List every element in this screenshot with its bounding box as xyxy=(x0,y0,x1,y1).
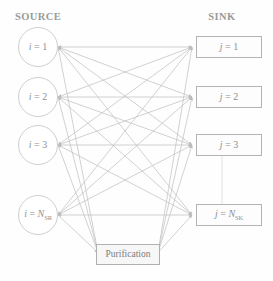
source-2[interactable]: i = 2 xyxy=(18,77,58,117)
column-header-source: SOURCE xyxy=(15,11,61,22)
source-1-label: i = 1 xyxy=(29,42,47,52)
sink-1[interactable]: j = 1 xyxy=(196,36,262,58)
network-flow-diagram: SOURCE SINK i = 1i = 2i = 3i = NSR j = 1… xyxy=(0,0,273,281)
source-2-label: i = 2 xyxy=(29,92,47,102)
edge-purification-to-sink-1 xyxy=(158,47,192,253)
edge-source-1-to-purification xyxy=(58,47,98,253)
edge-purification-to-sink-3 xyxy=(158,145,192,253)
sink-3[interactable]: j = 3 xyxy=(196,134,262,156)
source-3[interactable]: i = 3 xyxy=(18,125,58,165)
edge-source-3-to-purification xyxy=(58,145,98,253)
sink-1-label: j = 1 xyxy=(220,42,238,52)
source-3-label: i = 3 xyxy=(29,140,47,150)
sink-2-label: j = 2 xyxy=(220,92,238,102)
edge-group xyxy=(58,47,192,253)
sink-nsk[interactable]: j = NSK xyxy=(196,204,262,226)
edge-purification-to-sink-2 xyxy=(158,97,192,253)
sink-3-label: j = 3 xyxy=(220,140,238,150)
source-nsr[interactable]: i = NSR xyxy=(18,195,58,235)
source-1[interactable]: i = 1 xyxy=(18,27,58,67)
sink-nsk-label: j = NSK xyxy=(215,209,243,222)
purification-label: Purification xyxy=(106,250,151,260)
purification-node[interactable]: Purification xyxy=(96,244,160,265)
source-nsr-label: i = NSR xyxy=(24,209,52,222)
sink-2[interactable]: j = 2 xyxy=(196,86,262,108)
column-header-sink: SINK xyxy=(208,11,235,22)
